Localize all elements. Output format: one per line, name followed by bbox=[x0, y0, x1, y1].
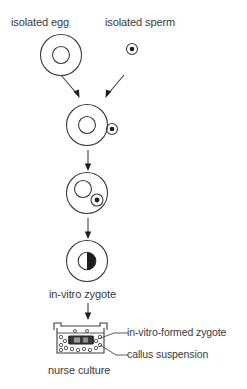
egg-nucleus bbox=[79, 117, 96, 134]
label-in-vitro-formed-zygote: in-vitro-formed zygote bbox=[127, 327, 226, 338]
egg-cell-membrane bbox=[67, 105, 108, 146]
internalized-sperm-nucleus bbox=[95, 198, 100, 203]
stage-fused-zygote bbox=[63, 238, 113, 284]
attached-sperm-nucleus bbox=[110, 127, 115, 132]
egg-nucleus bbox=[53, 47, 70, 64]
stage-isolated-sperm bbox=[122, 39, 142, 59]
stage-sperm-attached bbox=[63, 102, 125, 148]
label-isolated-egg: isolated egg bbox=[11, 16, 69, 28]
arrow-to-zygote bbox=[83, 218, 93, 240]
stage-sperm-internalized bbox=[63, 170, 125, 216]
egg-cell-membrane bbox=[67, 173, 108, 214]
label-in-vitro-zygote: in-vitro zygote bbox=[49, 288, 116, 300]
zygote-in-chamber-secondary bbox=[83, 338, 88, 343]
egg-nucleus bbox=[75, 181, 92, 198]
egg-cell-membrane bbox=[41, 35, 82, 76]
zygote-nucleus-fused-half bbox=[87, 252, 96, 270]
zygote-in-chamber bbox=[74, 338, 80, 343]
arrow-to-internalization bbox=[83, 150, 93, 172]
arrow-to-nurse-culture bbox=[83, 303, 93, 321]
figure-canvas: isolated egg isolated sperm bbox=[0, 0, 247, 389]
label-callus-suspension: callus suspension bbox=[127, 349, 208, 360]
label-isolated-sperm: isolated sperm bbox=[105, 16, 175, 28]
sperm-nucleus bbox=[130, 47, 135, 52]
arrow-sperm-to-fusion bbox=[100, 72, 130, 100]
zygote-chamber bbox=[69, 336, 93, 344]
label-nurse-culture: nurse culture bbox=[48, 364, 110, 376]
arrow-egg-to-fusion bbox=[58, 72, 88, 100]
